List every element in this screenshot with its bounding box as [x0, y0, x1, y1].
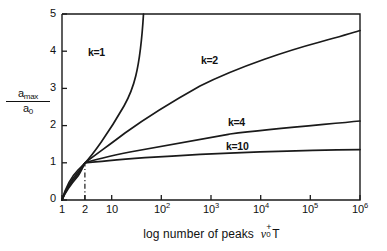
x-tick-text-1e4: 10 [253, 203, 265, 215]
chart-figure: 5 4 3 2 1 0 1 2 10 102 103 104 105 106 k… [0, 0, 387, 251]
y-tick-label-2: 2 [42, 118, 56, 130]
plot-frame [62, 14, 360, 200]
y-axis-den-base: a [23, 102, 29, 114]
x-tick-text-1: 1 [59, 203, 65, 215]
x-tick-text-1e2: 10 [154, 203, 166, 215]
x-tick-exp-1e6: 6 [364, 201, 368, 210]
x-tick-text-1e3: 10 [203, 203, 215, 215]
y-tick-label-1: 1 [42, 155, 56, 167]
x-tick-exp-1e5: 5 [314, 201, 318, 210]
x-axis-ticks [62, 195, 360, 200]
y-tick-label-5: 5 [42, 7, 56, 19]
y-axis-den-sub: 0 [29, 107, 33, 116]
x-axis-title: log number of peaks ν+0T [62, 226, 361, 242]
x-axis-title-tail: T [272, 227, 279, 241]
y-axis-title-denominator: a0 [6, 102, 50, 115]
x-tick-exp-1e2: 2 [166, 201, 170, 210]
x-tick-label-1e6: 106 [348, 203, 372, 215]
curve-label-k4: k=4 [228, 116, 245, 128]
x-tick-exp-1e3: 3 [215, 201, 219, 210]
x-axis-title-text: log number of peaks [143, 227, 254, 241]
curve-label-k2: k=2 [201, 54, 218, 66]
y-axis-title: amax a0 [6, 88, 50, 114]
x-tick-text-2: 2 [82, 203, 88, 215]
curve-k1 [62, 14, 144, 200]
x-tick-text-1e5: 10 [302, 203, 314, 215]
y-axis-num-sub: max [24, 92, 38, 101]
curve-label-k1: k=1 [88, 46, 105, 58]
x-tick-text-1e6: 10 [352, 203, 364, 215]
x-tick-label-1e3: 103 [199, 203, 223, 215]
y-axis-ticks [62, 14, 67, 200]
x-axis-nu-sub: 0 [266, 230, 271, 239]
x-tick-label-1e5: 105 [298, 203, 322, 215]
y-tick-label-4: 4 [42, 44, 56, 56]
x-tick-label-1e2: 102 [150, 203, 174, 215]
x-tick-label-2: 2 [77, 203, 93, 215]
x-tick-label-1: 1 [54, 203, 70, 215]
x-tick-exp-1e4: 4 [265, 201, 269, 210]
y-axis-title-numerator: amax [6, 88, 50, 102]
y-axis-num-base: a [18, 87, 24, 99]
x-tick-label-1e4: 104 [249, 203, 273, 215]
x-axis-nu-scripts: +0 [266, 226, 272, 238]
x-tick-label-10: 10 [102, 203, 122, 215]
curve-label-k10: k=10 [226, 140, 248, 152]
x-tick-text-10: 10 [106, 203, 118, 215]
